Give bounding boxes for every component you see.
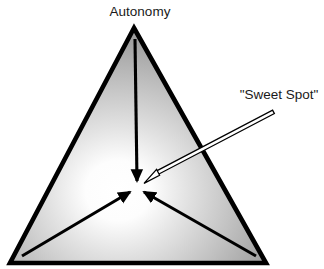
triangle-diagram: Autonomy "Sweet Spot" (0, 0, 324, 269)
diagram-canvas: Autonomy "Sweet Spot" (0, 0, 324, 269)
callout-label: "Sweet Spot" (240, 87, 319, 102)
arrow-from-apex (135, 39, 137, 181)
apex-label: Autonomy (110, 4, 171, 19)
